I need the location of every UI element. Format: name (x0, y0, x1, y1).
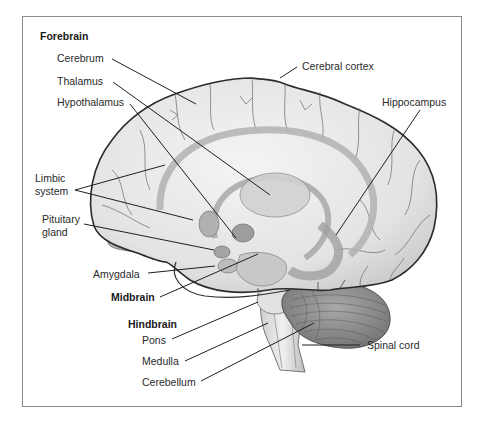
leader-cerebral-cortex (280, 67, 297, 78)
label-forebrain: Forebrain (40, 30, 88, 42)
label-pituitary-line2: gland (42, 226, 68, 238)
label-hindbrain: Hindbrain (128, 318, 177, 330)
label-medulla: Medulla (142, 355, 179, 367)
label-cerebrum: Cerebrum (57, 52, 104, 64)
thalamus-shape (240, 173, 310, 217)
label-pituitary-line1: Pituitary (42, 213, 80, 225)
label-amygdala: Amygdala (93, 268, 140, 280)
label-cerebellum: Cerebellum (142, 376, 196, 388)
label-limbic-line1: Limbic (35, 172, 65, 184)
amygdala-shape (218, 259, 238, 273)
pituitary-shape (214, 246, 230, 258)
label-midbrain: Midbrain (111, 291, 155, 303)
label-thalamus: Thalamus (57, 75, 103, 87)
label-pons: Pons (142, 334, 166, 346)
leader-medulla (185, 323, 268, 361)
label-hippocampus: Hippocampus (382, 96, 446, 108)
leader-cerebrum (112, 59, 196, 104)
label-hypothalamus: Hypothalamus (57, 96, 124, 108)
label-spinal-cord: Spinal cord (367, 339, 420, 351)
hypothalamus-shape (232, 224, 254, 242)
label-limbic-line2: system (35, 185, 68, 197)
limbic-bulge (199, 211, 219, 237)
label-cerebral-cortex: Cerebral cortex (302, 60, 374, 72)
